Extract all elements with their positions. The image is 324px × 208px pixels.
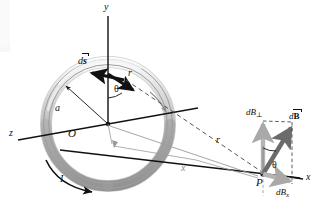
dB-resultant-label: dB bbox=[289, 112, 300, 121]
r-dashed-line-to-p bbox=[126, 80, 262, 172]
dB-resultant-vector-arrow bbox=[263, 128, 291, 174]
radius-a-arrow bbox=[66, 86, 108, 124]
scan-artifact bbox=[0, 0, 10, 52]
radius-label: a bbox=[55, 103, 60, 113]
dB-x-subscript: x bbox=[286, 191, 289, 199]
point-p-label: P bbox=[256, 177, 263, 188]
origin-label: O bbox=[68, 128, 76, 139]
dB-x-label: dBx bbox=[276, 188, 289, 199]
dB-perp-label: dB⊥ bbox=[246, 108, 263, 119]
figure-canvas bbox=[0, 0, 324, 208]
ds-s-glyph: s bbox=[83, 56, 87, 66]
theta-point-label: θ bbox=[272, 160, 277, 170]
r-dashed-label: r bbox=[216, 135, 220, 145]
r-ring-label: r bbox=[128, 68, 132, 78]
current-label: I bbox=[60, 174, 63, 184]
axis-label-y: y bbox=[104, 2, 108, 12]
axis-label-x: x bbox=[306, 172, 310, 182]
dB-vec-B-glyph: B bbox=[294, 112, 300, 121]
physics-figure-current-loop: y z x O a I ds r θ r x P θ dB⊥ dB dBx bbox=[0, 0, 324, 208]
axis-label-z: z bbox=[9, 128, 13, 138]
dB-perp-subscript: ⊥ bbox=[256, 111, 263, 119]
theta-ring-label: θ bbox=[114, 84, 119, 94]
ds-vector-label: ds bbox=[78, 56, 87, 66]
axial-distance-label: x bbox=[181, 163, 185, 173]
